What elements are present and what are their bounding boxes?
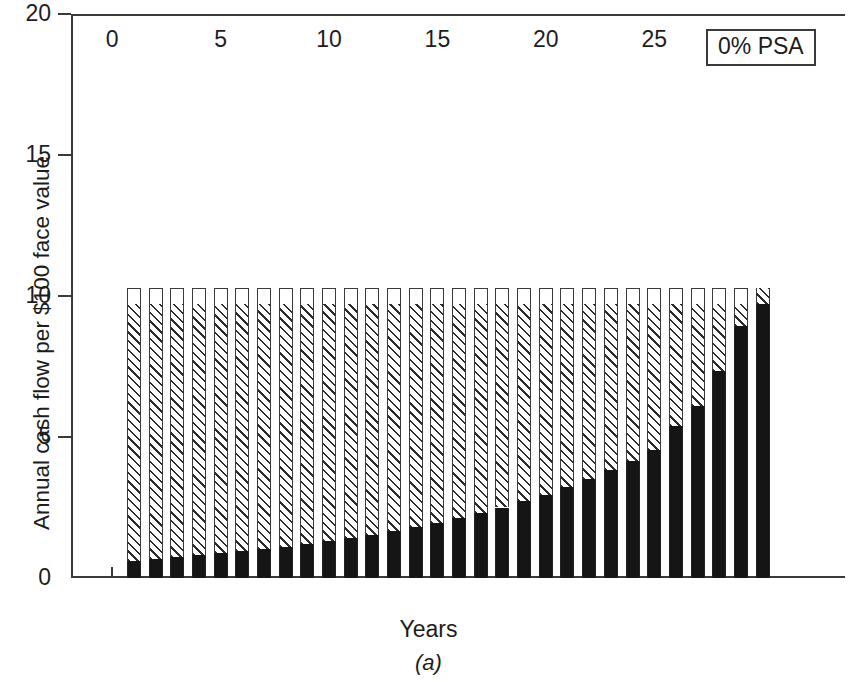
bar-segment-servicing	[365, 288, 379, 305]
y-axis-tick	[58, 154, 71, 156]
bar-segment-principal	[691, 406, 705, 578]
bar-column	[279, 14, 293, 578]
bar-segment-servicing	[734, 288, 748, 305]
y-axis-label: Annual cash flow per $100 face value	[29, 156, 55, 530]
bar-segment-servicing	[322, 288, 336, 305]
bar-column	[365, 14, 379, 578]
bar-segment-principal	[322, 541, 336, 578]
y-axis-tick-label: 0	[3, 566, 51, 589]
bar-segment-principal	[279, 547, 293, 578]
bar-segment-principal	[604, 470, 618, 578]
bar-segment-principal	[474, 513, 488, 578]
bar-column	[344, 14, 358, 578]
bar-segment-principal	[626, 461, 640, 578]
bar-segment-interest	[235, 304, 249, 551]
bar-segment-servicing	[387, 288, 401, 305]
x-axis-tick-label: 0	[106, 28, 119, 51]
bar-segment-principal	[257, 549, 271, 578]
bar-segment-servicing	[430, 288, 444, 305]
bar-segment-servicing	[300, 288, 314, 305]
bar-segment-interest	[365, 304, 379, 535]
bar-column	[582, 14, 596, 578]
bar-segment-principal	[235, 551, 249, 578]
bar-segment-interest	[669, 304, 683, 425]
y-axis-tick-label: 15	[3, 143, 51, 166]
bar-segment-principal	[409, 527, 423, 578]
bar-segment-servicing	[170, 288, 184, 305]
bar-segment-principal	[300, 544, 314, 578]
bar-segment-principal	[669, 426, 683, 578]
bar-segment-servicing	[517, 288, 531, 305]
bar-segment-interest	[214, 304, 228, 553]
bar-column	[452, 14, 466, 578]
bar-segment-interest	[322, 304, 336, 541]
bar-segment-principal	[127, 561, 141, 578]
bar-segment-principal	[756, 304, 770, 578]
bar-segment-principal	[734, 326, 748, 578]
bar-segment-interest	[170, 304, 184, 557]
bar-segment-servicing	[474, 288, 488, 305]
bar-segment-servicing	[626, 288, 640, 305]
bar-column	[409, 14, 423, 578]
bar-column	[322, 14, 336, 578]
bar-segment-servicing	[257, 288, 271, 305]
bar-segment-interest	[452, 304, 466, 518]
y-axis-tick-label: 20	[3, 2, 51, 25]
bar-segment-principal	[712, 371, 726, 578]
bar-segment-servicing	[279, 288, 293, 305]
y-axis-tick	[58, 295, 71, 297]
bar-segment-interest	[257, 304, 271, 548]
bar-column	[170, 14, 184, 578]
bar-column	[756, 14, 770, 578]
bar-column	[474, 14, 488, 578]
bar-column	[257, 14, 271, 578]
bar-segment-servicing	[452, 288, 466, 305]
bar-segment-principal	[430, 523, 444, 578]
bar-segment-principal	[560, 487, 574, 578]
bar-segment-interest	[149, 304, 163, 558]
bar-segment-servicing	[409, 288, 423, 305]
bar-column	[430, 14, 444, 578]
bar-segment-interest	[127, 304, 141, 561]
bar-column	[560, 14, 574, 578]
bar-segment-interest	[560, 304, 574, 487]
bar-segment-interest	[582, 304, 596, 479]
bar-segment-principal	[214, 553, 228, 578]
bar-segment-principal	[517, 501, 531, 578]
bar-segment-interest	[539, 304, 553, 494]
bar-segment-servicing	[192, 288, 206, 305]
bar-segment-principal	[495, 508, 509, 579]
bar-column	[647, 14, 661, 578]
bar-column	[387, 14, 401, 578]
bar-segment-principal	[452, 518, 466, 578]
bar-segment-principal	[170, 557, 184, 578]
bar-segment-principal	[647, 450, 661, 578]
bar-segment-servicing	[214, 288, 228, 305]
bar-column	[300, 14, 314, 578]
bar-segment-interest	[409, 304, 423, 527]
x-axis-tick	[111, 567, 113, 578]
bar-segment-servicing	[691, 288, 705, 305]
bar-segment-servicing	[669, 288, 683, 305]
bar-segment-interest	[192, 304, 206, 555]
bar-column	[127, 14, 141, 578]
bar-segment-interest	[430, 304, 444, 523]
bar-column	[604, 14, 618, 578]
bar-segment-interest	[279, 304, 293, 547]
bar-segment-servicing	[582, 288, 596, 305]
bar-column	[149, 14, 163, 578]
bar-segment-interest	[300, 304, 314, 544]
bar-column	[669, 14, 683, 578]
bar-column	[691, 14, 705, 578]
bar-segment-principal	[582, 479, 596, 578]
bar-column	[192, 14, 206, 578]
bar-segment-principal	[387, 531, 401, 578]
bar-segment-interest	[712, 304, 726, 370]
bar-segment-interest	[517, 304, 531, 501]
bar-column	[517, 14, 531, 578]
legend-psa-label: 0% PSA	[718, 33, 804, 59]
y-axis-tick-label: 5	[3, 425, 51, 448]
bar-segment-principal	[344, 538, 358, 578]
bar-segment-principal	[539, 495, 553, 578]
bar-column	[214, 14, 228, 578]
